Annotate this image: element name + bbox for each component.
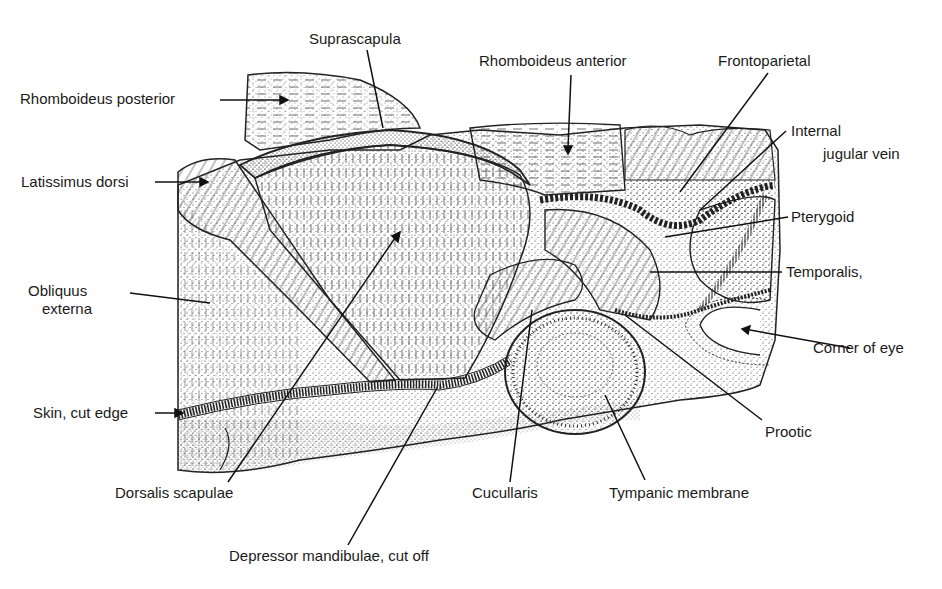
label-tympanic-membrane: Tympanic membrane bbox=[609, 484, 749, 502]
frontoparietal-region bbox=[625, 126, 775, 180]
label-internal-jugular-vein-line2: jugular vein bbox=[823, 145, 900, 163]
label-depressor-mandibulae: Depressor mandibulae, cut off bbox=[229, 547, 429, 565]
label-suprascapula: Suprascapula bbox=[309, 30, 401, 48]
label-frontoparietal: Frontoparietal bbox=[718, 52, 811, 70]
label-cucullaris: Cucullaris bbox=[472, 484, 538, 502]
label-temporalis: Temporalis, bbox=[786, 263, 863, 281]
label-obliquus-externa-line1: Obliquus bbox=[28, 282, 87, 300]
label-pterygoid: Pterygoid bbox=[791, 208, 854, 226]
label-dorsalis-scapulae: Dorsalis scapulae bbox=[115, 484, 233, 502]
label-skin-cut-edge: Skin, cut edge bbox=[33, 404, 128, 422]
label-obliquus-externa-line2: externa bbox=[42, 300, 92, 318]
label-prootic: Prootic bbox=[765, 423, 812, 441]
label-latissimus-dorsi: Latissimus dorsi bbox=[21, 173, 129, 191]
label-rhomboideus-posterior: Rhomboideus posterior bbox=[20, 90, 175, 108]
label-internal-jugular-vein-line1: Internal bbox=[791, 122, 841, 140]
label-corner-of-eye: Corner of eye bbox=[813, 339, 904, 357]
label-rhomboideus-anterior: Rhomboideus anterior bbox=[479, 52, 627, 70]
